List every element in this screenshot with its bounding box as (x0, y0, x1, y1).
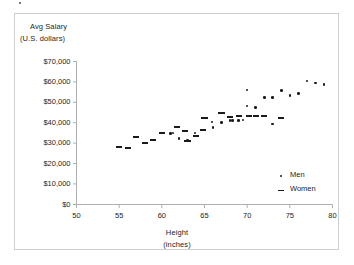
x-axis-title-line1: Height (0, 228, 354, 237)
y-axis-title-line1: Avg Salary (30, 22, 67, 31)
x-axis-title-line2: (inches) (0, 240, 354, 249)
x-tick-label: 65 (193, 211, 217, 220)
data-point-women (253, 115, 259, 117)
y-tick-label: $40,000 (25, 118, 71, 127)
data-point-women (261, 115, 267, 117)
data-point-women (218, 112, 224, 114)
data-point-men (263, 96, 266, 99)
data-point-women (193, 135, 199, 137)
data-point-men (254, 106, 257, 109)
data-point-women (159, 132, 165, 134)
data-point-women (142, 142, 148, 144)
data-point-men (323, 83, 326, 86)
x-tick-label: 70 (235, 211, 259, 220)
data-point-men (297, 92, 300, 95)
data-point-women (125, 147, 131, 149)
legend-women-label: Women (290, 184, 316, 193)
data-point-women (133, 136, 139, 138)
x-tick-label: 50 (65, 211, 89, 220)
data-point-men (289, 94, 292, 97)
legend-women-dash-icon (278, 190, 284, 192)
x-tick-label: 80 (321, 211, 345, 220)
data-point-men (271, 96, 274, 99)
chart-figure: Avg Salary (U.S. dollars) Height (inches… (0, 0, 354, 265)
data-point-women (278, 117, 284, 119)
data-point-women (150, 139, 156, 141)
data-point-men (220, 121, 223, 124)
x-tick-label: 75 (278, 211, 302, 220)
data-point-women (200, 129, 206, 131)
legend-men-label: Men (290, 170, 305, 179)
data-point-women (227, 116, 233, 118)
data-point-women (184, 140, 190, 142)
data-point-men (231, 119, 234, 122)
data-point-women (182, 130, 188, 132)
y-tick-label: $10,000 (25, 179, 71, 188)
y-axis-title-line2: (U.S. dollars) (20, 34, 65, 43)
x-tick-label: 55 (107, 211, 131, 220)
data-point-women (174, 126, 180, 128)
data-point-men (314, 82, 317, 85)
x-tick-label: 60 (150, 211, 174, 220)
y-tick-label: $20,000 (25, 159, 71, 168)
data-point-women (201, 117, 207, 119)
data-point-women (236, 115, 242, 117)
data-point-men (237, 119, 240, 122)
data-point-men (280, 89, 283, 92)
y-tick-label: $30,000 (25, 138, 71, 147)
y-tick-label: $50,000 (25, 97, 71, 106)
y-tick-label: $60,000 (25, 77, 71, 86)
y-tick-label: $70,000 (25, 57, 71, 66)
y-tick-label: $0 (25, 200, 71, 209)
data-point-women (246, 115, 252, 117)
data-point-women (116, 146, 122, 148)
